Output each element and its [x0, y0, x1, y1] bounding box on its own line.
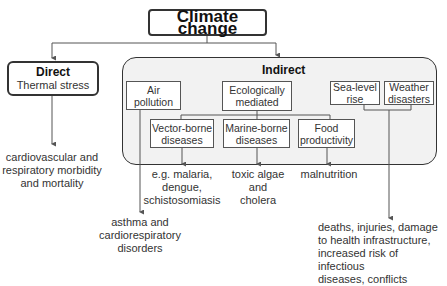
marine-borne-box: Marine-borne diseases	[223, 119, 290, 148]
vector-borne-box: Vector-borne diseases	[150, 119, 214, 148]
climate-change-label: Climate change	[150, 11, 265, 35]
food-productivity-outcome: malnutrition	[296, 168, 362, 181]
climate-change-box: Climate change	[148, 9, 267, 36]
direct-outcome: cardiovascular and respiratory morbidity…	[0, 151, 104, 190]
air-pollution-box: Air pollution	[126, 81, 181, 110]
direct-title: Direct	[36, 65, 70, 79]
air-pollution-outcome: asthma and cardiorespiratory disorders	[90, 216, 190, 255]
vector-borne-outcome: e.g. malaria, dengue, schistosomiasis	[136, 168, 228, 207]
direct-box: Direct Thermal stress	[7, 61, 99, 96]
marine-borne-outcome: toxic algae and cholera	[225, 168, 291, 207]
food-productivity-box: Food productivity	[298, 119, 355, 148]
direct-subtitle: Thermal stress	[17, 79, 90, 92]
weather-disasters-box: Weather disasters	[384, 81, 434, 105]
sea-weather-outcome: deaths, injuries, damage to health infra…	[318, 221, 447, 286]
ecologically-mediated-box: Ecologically mediated	[222, 81, 292, 111]
sea-level-rise-box: Sea-level rise	[330, 81, 380, 105]
